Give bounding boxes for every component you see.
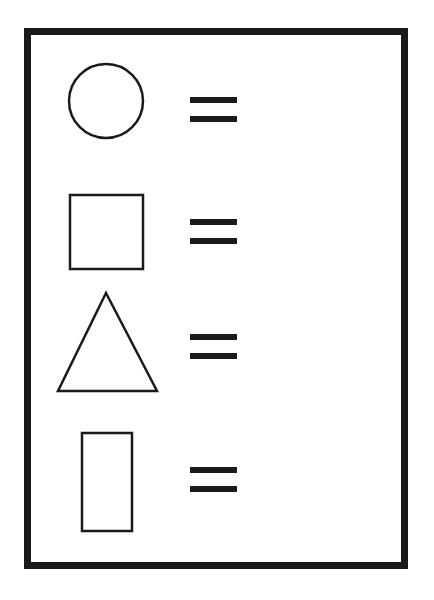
shapes-layer bbox=[0, 0, 434, 600]
square-shape bbox=[70, 195, 143, 269]
circle-shape bbox=[69, 64, 143, 138]
rectangle-shape bbox=[82, 433, 132, 531]
triangle-shape bbox=[58, 293, 157, 391]
